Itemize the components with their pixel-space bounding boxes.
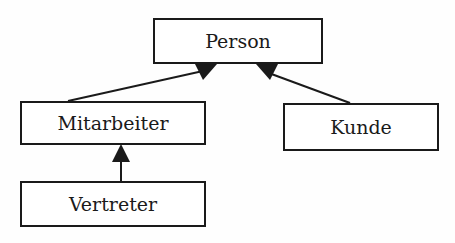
class-mitarbeiter: Mitarbeiter [20,101,206,145]
arrowhead-icon [112,144,130,162]
edge-mitarbeiter-person [68,71,203,101]
edge-kunde-person [266,72,350,103]
arrowhead-icon [256,64,278,80]
class-kunde: Kunde [283,103,439,151]
class-label: Mitarbeiter [57,112,168,134]
class-label: Person [205,30,271,52]
class-label: Vertreter [69,193,157,215]
class-label: Kunde [330,116,392,138]
class-vertreter: Vertreter [20,181,206,227]
class-person: Person [153,18,323,64]
